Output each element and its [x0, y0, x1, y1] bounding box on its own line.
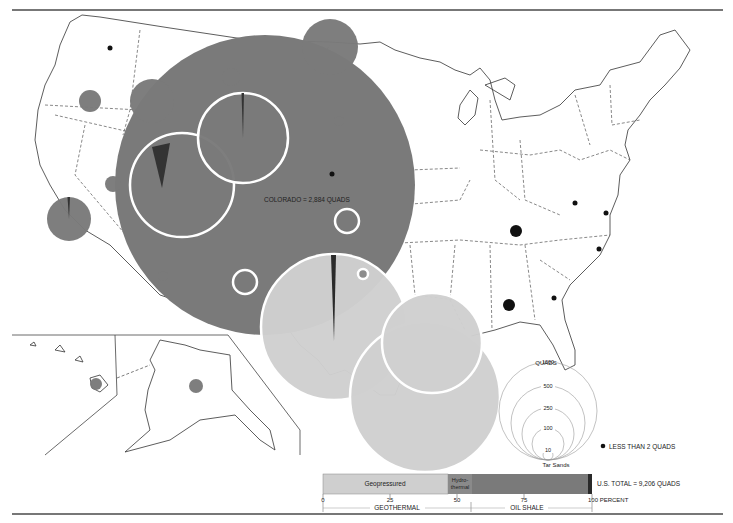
bubble-hawaii: [90, 378, 102, 390]
dot-west-virginia: [573, 201, 578, 206]
legend-value-10: 10: [545, 447, 551, 453]
tick-0: 0: [321, 497, 325, 503]
bubble-arizona: [158, 271, 168, 281]
dot-nebraska: [330, 172, 335, 177]
energy-resource-map: COLORADO = 2,884 QUADS 100050025010010 Q…: [0, 0, 733, 523]
geopressured-label: Geopressured: [364, 480, 406, 488]
dot-north-carolina: [597, 247, 602, 252]
dot-alabama: [503, 299, 515, 311]
total-label: U.S. TOTAL = 9,206 QUADS: [597, 480, 681, 488]
dot-georgia: [552, 296, 557, 301]
bubble-oklahoma: [358, 269, 368, 279]
less-than-label: LESS THAN 2 QUADS: [609, 443, 676, 451]
dot-kentucky: [510, 225, 522, 237]
group-geothermal: GEOTHERMAL: [374, 504, 420, 511]
legend-unit: QUADS: [535, 360, 556, 366]
bubble-alaska: [189, 379, 203, 393]
bubble-louisiana: [382, 293, 482, 393]
tick-75: 75: [521, 497, 528, 503]
group-oil-shale: OIL SHALE: [510, 504, 544, 511]
bubble-montana: [222, 68, 240, 86]
size-scale-legend: 100050025010010: [499, 359, 597, 460]
bubble-oregon: [79, 90, 101, 112]
inset-alaska-hawaii: [12, 335, 300, 455]
bubble-new-mexico: [233, 270, 257, 294]
less-than-dot-icon: [601, 444, 606, 449]
dot-virginia: [604, 211, 609, 216]
dot-washington: [108, 46, 113, 51]
legend-value-100: 100: [543, 425, 552, 431]
bubble-south-dakota: [334, 116, 344, 126]
tick-50: 50: [454, 497, 461, 503]
hydro-label-2: thermal: [451, 484, 469, 490]
bubble-north-dakota: [302, 19, 358, 75]
bubble-nevada: [105, 176, 121, 192]
hydro-label-1: Hydro-: [452, 477, 469, 483]
legend-circle-100: [532, 428, 564, 460]
colorado-annotation: COLORADO = 2,884 QUADS: [264, 196, 350, 204]
legend-value-250: 250: [543, 405, 552, 411]
bar-oil-shale: [472, 474, 588, 494]
tick-100: 100 PERCENT: [588, 497, 629, 503]
resource-bubbles: [47, 19, 500, 472]
stacked-percent-bar: Geopressured Hydro- thermal U.S. TOTAL =…: [321, 474, 680, 512]
legend-value-500: 500: [543, 383, 552, 389]
tar-sands-label: Tar Sands: [542, 462, 569, 468]
bubble-idaho: [130, 79, 174, 123]
bar-tar-sands: [588, 474, 592, 494]
tick-25: 25: [387, 497, 394, 503]
bubble-kansas: [335, 209, 359, 233]
